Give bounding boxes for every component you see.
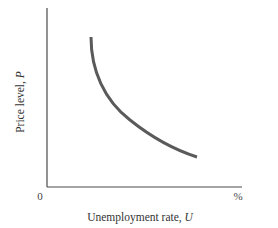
x-axis-end-label: % xyxy=(233,190,242,202)
y-axis-label: Price level, P xyxy=(14,71,27,133)
x-axis-label-text: Unemployment rate, U xyxy=(87,211,193,224)
origin-label: 0 xyxy=(37,190,43,202)
curve-line xyxy=(91,37,197,157)
x-axis-label: Unemployment rate, U xyxy=(87,211,193,224)
phillips-style-chart: 0 % Unemployment rate, U Price level, P xyxy=(0,0,278,228)
y-axis-label-text: Price level, P xyxy=(14,71,27,133)
